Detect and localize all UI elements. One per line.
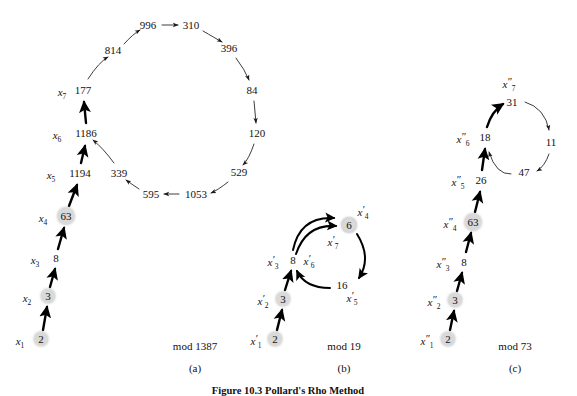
node-variable-label: x″3 bbox=[436, 259, 449, 270]
node-variable-label: x5 bbox=[47, 170, 56, 181]
panel-c-label: (c) bbox=[509, 362, 521, 374]
node-variable-label: x″5 bbox=[451, 177, 464, 188]
node-value: 11 bbox=[546, 137, 557, 148]
node-value: 2 bbox=[272, 334, 278, 345]
panel-c-modulus: mod 73 bbox=[498, 340, 531, 352]
panel-a-modulus: mod 1387 bbox=[173, 340, 217, 352]
node-value: 8 bbox=[290, 255, 296, 266]
node-variable-label: x6 bbox=[53, 130, 62, 141]
node-value: 1053 bbox=[185, 189, 207, 200]
node-value: 3 bbox=[452, 295, 458, 306]
node-variable-label: x″1 bbox=[420, 336, 433, 347]
node-variable-label: x1 bbox=[16, 336, 25, 347]
node-value: 1186 bbox=[75, 128, 97, 139]
node-variable-label: x′1 bbox=[250, 336, 261, 347]
node-value: 63 bbox=[61, 211, 72, 222]
node-value: 120 bbox=[249, 128, 266, 139]
node-value: 814 bbox=[105, 45, 122, 56]
node-variable-label: x″2 bbox=[427, 297, 440, 308]
node-variable-label: x′5 bbox=[346, 293, 357, 304]
node-variable-label: x7 bbox=[58, 87, 67, 98]
node-value: 339 bbox=[111, 168, 128, 179]
node-variable-label: x′6 bbox=[303, 256, 314, 267]
node-variable-label: x′2 bbox=[257, 296, 268, 307]
node-variable-label: x′4 bbox=[357, 207, 368, 218]
node-value: 3 bbox=[280, 294, 286, 305]
node-variable-label: x″7 bbox=[502, 79, 515, 90]
node-variable-label: x4 bbox=[39, 213, 48, 224]
node-value: 3 bbox=[45, 291, 51, 302]
panel-b-label: (b) bbox=[338, 362, 351, 374]
node-value: 6 bbox=[346, 220, 352, 231]
node-value: 16 bbox=[337, 280, 348, 291]
node-value: 177 bbox=[75, 85, 92, 96]
node-value: 595 bbox=[143, 189, 160, 200]
node-value: 2 bbox=[445, 334, 451, 345]
node-value: 84 bbox=[247, 85, 258, 96]
node-value: 26 bbox=[476, 175, 487, 186]
figure-caption: Figure 10.3 Pollard's Rho Method bbox=[212, 385, 364, 396]
node-value: 18 bbox=[480, 132, 491, 143]
node-value: 8 bbox=[461, 257, 467, 268]
node-variable-label: x3 bbox=[31, 255, 40, 266]
node-value: 1194 bbox=[69, 168, 91, 179]
panel-b-modulus: mod 19 bbox=[327, 340, 360, 352]
node-value: 63 bbox=[468, 217, 479, 228]
node-value: 396 bbox=[221, 43, 238, 54]
node-value: 310 bbox=[183, 20, 200, 31]
node-variable-label: x″4 bbox=[443, 219, 456, 230]
node-value: 2 bbox=[38, 334, 44, 345]
node-variable-label: x′3 bbox=[267, 257, 278, 268]
node-value: 47 bbox=[519, 167, 530, 178]
node-variable-label: x″6 bbox=[456, 134, 469, 145]
node-variable-label: x′7 bbox=[327, 237, 338, 248]
graph-c-cycle-edges bbox=[489, 102, 549, 174]
panel-a-label: (a) bbox=[189, 362, 201, 374]
node-value: 529 bbox=[231, 167, 248, 178]
node-value: 996 bbox=[140, 20, 157, 31]
node-value: 31 bbox=[507, 97, 518, 108]
node-variable-label: x2 bbox=[23, 293, 32, 304]
node-value: 8 bbox=[53, 253, 59, 264]
